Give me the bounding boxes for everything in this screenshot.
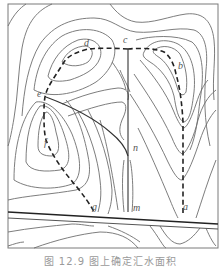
label-n: n: [133, 142, 138, 153]
label-c: c: [123, 34, 128, 45]
label-b: b: [178, 60, 183, 71]
label-g: g: [92, 201, 97, 212]
label-e: e: [37, 88, 42, 99]
dam-line: [8, 212, 218, 229]
label-d: d: [84, 37, 90, 48]
figure-caption: 图 12.9 图上确定汇水面积: [0, 253, 221, 268]
label-m: m: [133, 202, 140, 213]
label-a: a: [183, 201, 188, 212]
